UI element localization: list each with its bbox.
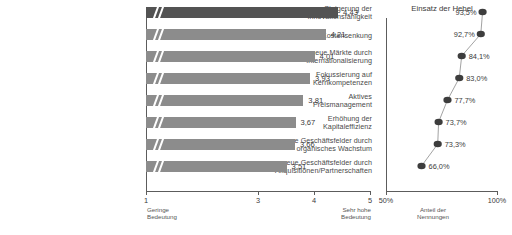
bar-row: 3,51 (146, 161, 370, 172)
bar-segment (146, 139, 295, 150)
dot-value-label: 73,7% (446, 118, 467, 127)
dot-value-label: 92,7% (449, 30, 475, 39)
bar-chart-axis-caption-low: GeringeBedeutung (147, 206, 203, 221)
axis-caption-high-line2: Bedeutung (341, 213, 371, 220)
bar-value-label: 3,93 (315, 74, 330, 83)
bar-value-label: 3,51 (292, 162, 307, 171)
bar-x-tick-label: 1 (134, 196, 158, 205)
dot-x-tick (386, 191, 387, 195)
bar-row: 3,66 (146, 139, 370, 150)
axis-break-icon (153, 5, 165, 20)
bar-value-label: 3,67 (301, 118, 316, 127)
dot-x-tick (497, 191, 498, 195)
dot-marker (458, 53, 466, 59)
axis-break-icon (153, 115, 165, 130)
bar-chart-axis-caption-high: Sehr hoheBedeutung (315, 206, 371, 221)
bar-x-tick (314, 191, 315, 195)
bar-value-label: 4,21 (331, 30, 346, 39)
bar-x-tick-label: 4 (302, 196, 326, 205)
dot-marker (477, 31, 485, 37)
bar-row: 3,81 (146, 95, 370, 106)
dot-value-label: 77,7% (454, 96, 475, 105)
dot-marker (478, 9, 486, 15)
axis-break-icon (153, 27, 165, 42)
dot-value-label: 66,0% (429, 162, 450, 171)
bar-value-label: 3,81 (308, 96, 323, 105)
dot-marker (417, 163, 425, 169)
bar-row: 4,21 (146, 29, 370, 40)
bar-segment (146, 95, 303, 106)
axis-break-icon (153, 137, 165, 152)
bar-segment (146, 51, 315, 62)
bar-segment (146, 29, 326, 40)
bar-row: 4,43 (146, 7, 370, 18)
dot-x-tick-label: 50% (371, 196, 401, 205)
dot-marker (435, 119, 443, 125)
bar-segment (146, 7, 338, 18)
bar-chart-bedeutung-der-hebel: Steigerung derInnovationsfähigkeitKosten… (0, 0, 372, 235)
dot-value-label: 73,3% (445, 140, 466, 149)
chart-figure: Steigerung derInnovationsfähigkeitKosten… (0, 0, 512, 235)
bar-value-label: 4,01 (320, 52, 335, 61)
bar-segment (146, 161, 287, 172)
bar-segment (146, 73, 310, 84)
bar-x-tick-label: 3 (246, 196, 270, 205)
dot-value-label: 84,1% (469, 52, 490, 61)
axis-caption-low-line1: Geringe (147, 206, 169, 213)
dot-chart-x-axis-caption-line1: Anteil der (420, 206, 446, 213)
axis-caption-high-line1: Sehr hohe (342, 206, 371, 213)
axis-break-icon (153, 49, 165, 64)
dot-x-tick-label: 100% (482, 196, 512, 205)
axis-caption-low-line2: Bedeutung (147, 213, 177, 220)
bar-row: 4,01 (146, 51, 370, 62)
dot-chart-x-axis-caption: Anteil der Nennungen (398, 206, 468, 221)
axis-break-icon (153, 159, 165, 174)
bar-x-tick (146, 191, 147, 195)
dot-value-label: 93,5% (451, 8, 477, 17)
dot-chart-x-axis-caption-line2: Nennungen (417, 213, 449, 220)
dot-marker (434, 141, 442, 147)
bar-row: 3,67 (146, 117, 370, 128)
dot-chart-einsatz-der-hebel: Einsatz der Hebel 93,5%92,7%84,1%83,0%77… (372, 0, 512, 235)
bar-value-label: 3,66 (300, 140, 315, 149)
bar-x-tick (370, 191, 371, 195)
bar-row: 3,93 (146, 73, 370, 84)
axis-break-icon (153, 93, 165, 108)
bar-segment (146, 117, 296, 128)
bar-x-tick (258, 191, 259, 195)
axis-break-icon (153, 71, 165, 86)
dot-value-label: 83,0% (466, 74, 487, 83)
bar-value-label: 4,43 (343, 8, 358, 17)
dot-marker (455, 75, 463, 81)
dot-marker (443, 97, 451, 103)
